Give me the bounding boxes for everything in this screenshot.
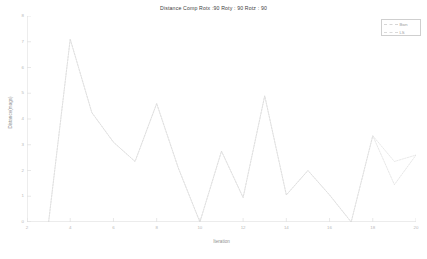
x-tick-label: 16	[327, 225, 332, 230]
y-tick-label: 3	[22, 142, 24, 147]
x-tick-label: 6	[112, 225, 114, 230]
y-tick-label: 1	[22, 193, 24, 198]
legend-swatch	[384, 32, 398, 33]
x-tick-label: 12	[241, 225, 246, 230]
y-tick-label: 5	[22, 90, 24, 95]
x-axis-label: Iteration	[27, 239, 416, 244]
y-tick-label: 0	[22, 219, 24, 224]
x-axis-tick-labels: 2468101214161820	[27, 225, 416, 235]
series-line	[49, 39, 416, 222]
x-tick-label: 4	[69, 225, 71, 230]
y-tick-label: 6	[22, 65, 24, 70]
legend-label: Bwn	[400, 22, 408, 27]
axis-ticks	[27, 16, 416, 222]
y-tick-label: 7	[22, 39, 24, 44]
figure-window: Distance Comp Rotx :90 Roty : 90 Rotz : …	[0, 0, 427, 259]
y-axis-label: Distance(mags)	[8, 78, 13, 148]
axes-group	[27, 16, 416, 222]
chart-title: Distance Comp Rotx :90 Roty : 90 Rotz : …	[0, 5, 427, 11]
x-tick-label: 14	[284, 225, 289, 230]
x-tick-label: 20	[414, 225, 419, 230]
legend-item[interactable]: Bwn	[382, 20, 420, 28]
plot-svg	[27, 16, 416, 222]
legend-label: LS	[400, 30, 405, 35]
x-tick-label: 8	[155, 225, 157, 230]
x-tick-label: 2	[26, 225, 28, 230]
x-tick-label: 10	[197, 225, 202, 230]
legend-swatch	[384, 24, 398, 25]
plot-area	[27, 16, 416, 222]
data-series-group	[49, 39, 416, 222]
x-tick-label: 18	[370, 225, 375, 230]
y-tick-label: 8	[22, 13, 24, 18]
series-line	[49, 39, 416, 222]
y-tick-label: 4	[22, 116, 24, 121]
legend-item[interactable]: LS	[382, 28, 420, 36]
y-tick-label: 2	[22, 168, 24, 173]
legend[interactable]: BwnLS	[381, 19, 421, 36]
